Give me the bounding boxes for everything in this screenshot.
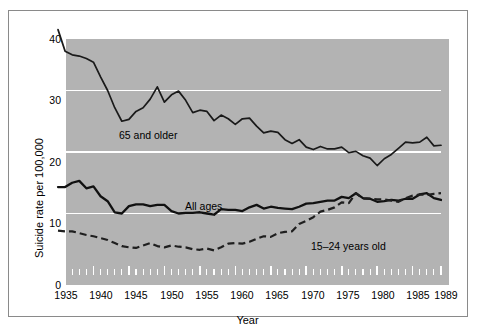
x-tick-label-1960: 1960 [222, 290, 262, 300]
x-tick-label-1975: 1975 [328, 290, 368, 300]
x-tick-label-1945: 1945 [116, 290, 156, 300]
x-tick-label-1935: 1935 [46, 290, 86, 300]
y-tick-label-40: 40 [35, 34, 61, 44]
x-tick-label-1950: 1950 [152, 290, 192, 300]
x-tick-label-1970: 1970 [293, 290, 333, 300]
series-label-65-and-older: 65 and older [119, 129, 177, 141]
figure-frame: 40 30 20 10 0 1935 1940 1945 1950 1955 1… [8, 10, 468, 317]
x-tick-label-1955: 1955 [187, 290, 227, 300]
x-axis-title: Year [9, 314, 477, 326]
y-axis-title: Suicide rate per 100,000 [33, 138, 45, 258]
x-tick-label-1980: 1980 [363, 290, 403, 300]
y-tick-label-30: 30 [35, 95, 61, 105]
x-tick-label-1989: 1989 [426, 290, 466, 300]
series-label-all-ages: All ages [185, 200, 222, 212]
plot-area [66, 39, 449, 285]
x-tick-label-1965: 1965 [257, 290, 297, 300]
x-tick-label-1940: 1940 [81, 290, 121, 300]
figure-container: 40 30 20 10 0 1935 1940 1945 1950 1955 1… [0, 0, 477, 330]
series-label-15-24-years-old: 15–24 years old [311, 240, 386, 252]
